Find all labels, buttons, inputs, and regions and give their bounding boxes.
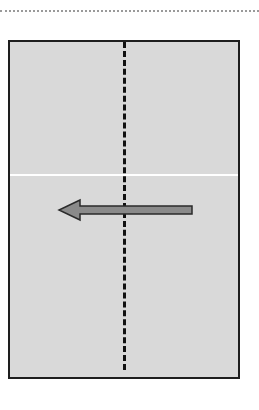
diagram-canvas	[0, 0, 259, 410]
top-dotted-guide-line	[0, 10, 259, 12]
arrow-left-icon	[10, 42, 238, 377]
paper-sheet	[8, 40, 240, 379]
